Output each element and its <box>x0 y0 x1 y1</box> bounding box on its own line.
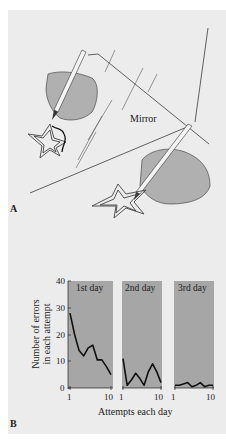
y-tick-0: 0 <box>60 383 65 393</box>
y-tick-10: 10 <box>56 356 65 366</box>
day3-panel <box>174 281 214 388</box>
day1-x-end: 10 <box>104 392 113 402</box>
day2-x-end: 10 <box>154 392 163 402</box>
panel-letter-b: B <box>10 418 17 429</box>
y-axis-label: Number of errors in each attempt <box>30 289 52 379</box>
y-axis-label-line1: Number of errors <box>30 289 41 379</box>
day1-x-start: 1 <box>67 392 72 402</box>
y-tick-40: 40 <box>56 276 65 286</box>
day2-x-start: 1 <box>119 392 124 402</box>
day1-title: 1st day <box>76 283 103 293</box>
day3-x-end: 10 <box>206 392 215 402</box>
x-axis-label: Attempts each day <box>98 406 172 417</box>
day3-title: 3rd day <box>178 283 207 293</box>
y-axis-label-line2: in each attempt <box>41 289 52 379</box>
day2-title: 2nd day <box>125 283 155 293</box>
day3-x-start: 1 <box>171 392 176 402</box>
y-tick-20: 20 <box>56 330 65 340</box>
y-tick-30: 30 <box>56 303 65 313</box>
chart-panels <box>68 281 214 388</box>
